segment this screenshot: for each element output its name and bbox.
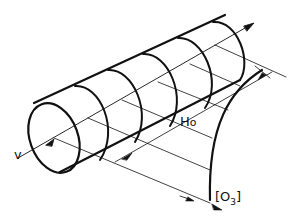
cylinder-bottom-edge <box>60 80 240 172</box>
h0-label-sub: o <box>190 116 197 129</box>
surface-curve <box>210 70 262 200</box>
axis-arrow-icon <box>244 23 254 31</box>
bottom-arrow-icon <box>186 197 194 201</box>
velocity-label: v <box>14 148 22 161</box>
diagram-canvas: v Ho [O3] <box>0 0 298 224</box>
projection-line-6 <box>215 45 286 77</box>
h0-label: Ho <box>180 115 197 128</box>
surface-label-close: ] <box>236 189 241 204</box>
dimension-arrow-start-icon <box>122 153 132 160</box>
projection-line-5 <box>190 64 240 86</box>
surface-label-open: [O <box>215 189 230 204</box>
cylinder-top-edge <box>34 15 225 103</box>
cylinder-drawing <box>0 0 298 224</box>
h0-label-main: H <box>180 114 190 129</box>
projection-line-4 <box>158 82 228 110</box>
projection-line-1 <box>54 138 210 203</box>
surface-label: [O3] <box>215 190 241 207</box>
